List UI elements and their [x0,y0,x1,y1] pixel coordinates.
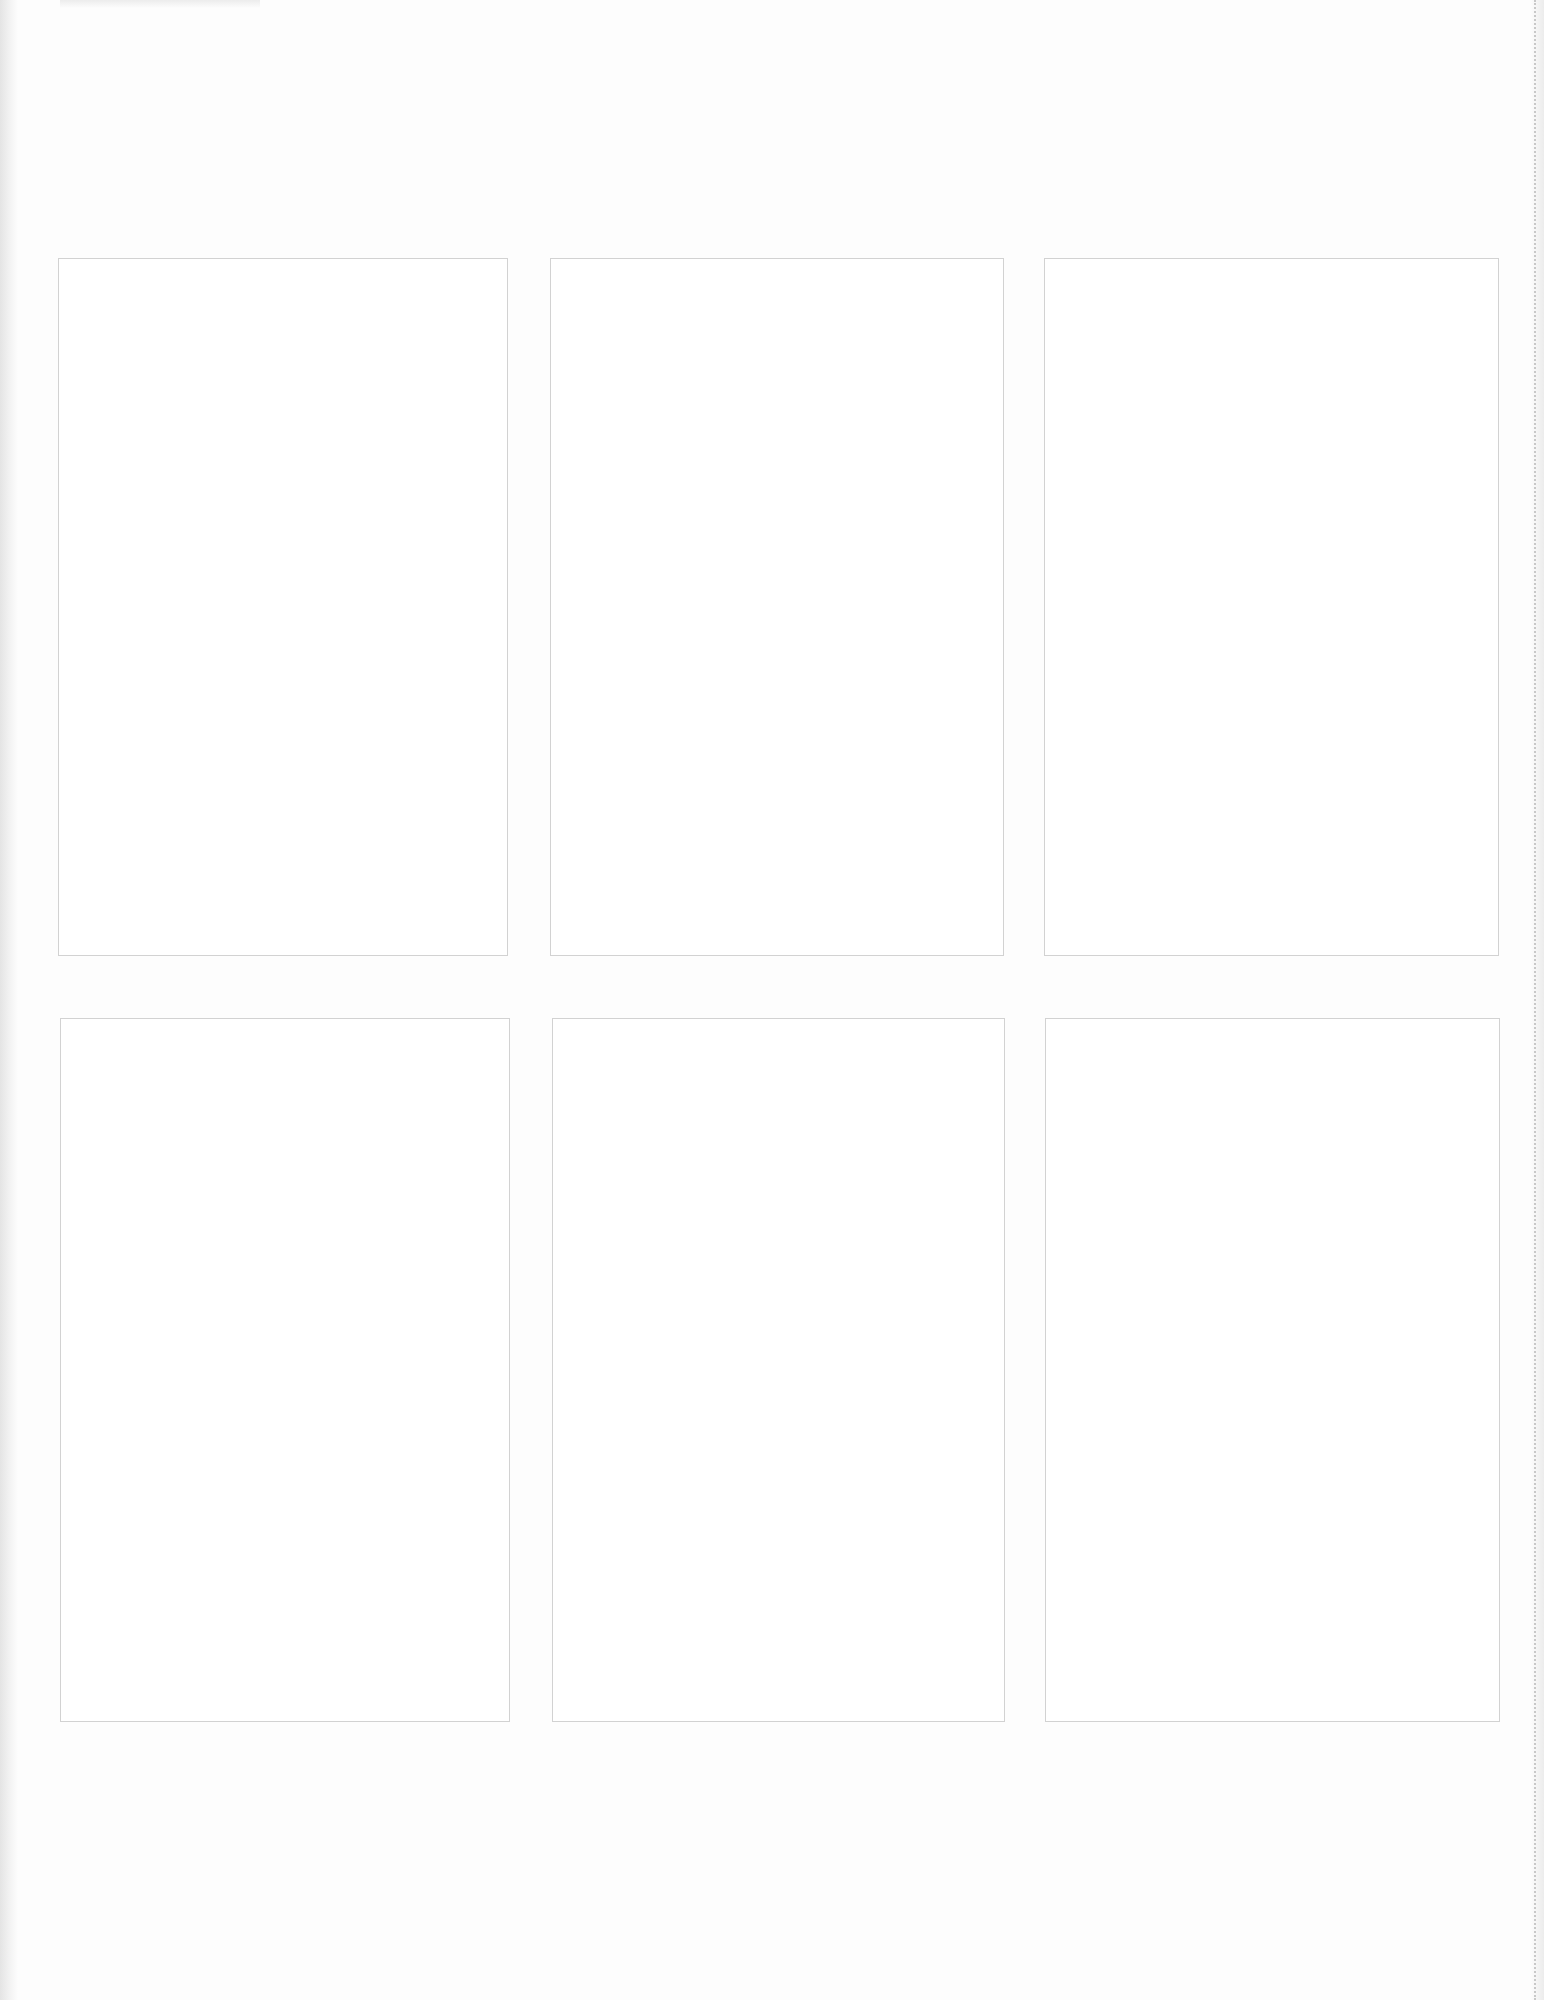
blank-panel-r1c3 [1044,258,1499,956]
right-gutter [1530,0,1544,2000]
bleed-through-mark [60,0,260,8]
blank-panel-r2c1 [60,1018,510,1722]
perforation-edge [1534,0,1536,2000]
blank-panel-r2c2 [552,1018,1005,1722]
blank-panel-r1c1 [58,258,508,956]
blank-panel-r2c3 [1045,1018,1500,1722]
blank-panel-r1c2 [550,258,1004,956]
binding-shadow [0,0,18,2000]
